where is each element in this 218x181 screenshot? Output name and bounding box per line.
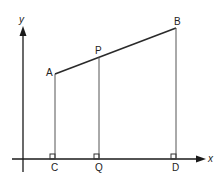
point-label-A: A — [46, 67, 53, 78]
point-label-D: D — [172, 162, 179, 173]
point-label-B: B — [174, 16, 181, 27]
point-label-Q: Q — [95, 162, 103, 173]
y-axis-label: y — [18, 14, 25, 25]
x-axis-arrowhead — [196, 156, 206, 163]
point-label-C: C — [51, 162, 58, 173]
right-angle-marker-C — [50, 154, 55, 159]
diagram-canvas: x y A P B C Q D — [0, 0, 218, 181]
right-angle-marker-D — [171, 154, 176, 159]
segment-AB — [55, 28, 176, 74]
y-axis-arrowhead — [20, 26, 27, 36]
x-axis-label: x — [207, 153, 214, 164]
right-angle-marker-Q — [94, 154, 99, 159]
point-label-P: P — [95, 45, 102, 56]
